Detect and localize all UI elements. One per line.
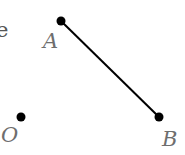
geometry-diagram: e A B O	[0, 0, 185, 155]
point-o	[17, 113, 26, 122]
cropped-text-fragment: e	[0, 18, 8, 42]
segment-ab	[61, 21, 159, 117]
point-a	[57, 17, 66, 26]
label-b: B	[161, 127, 177, 151]
label-a: A	[41, 29, 58, 53]
label-o: O	[1, 123, 18, 147]
point-b	[155, 113, 164, 122]
